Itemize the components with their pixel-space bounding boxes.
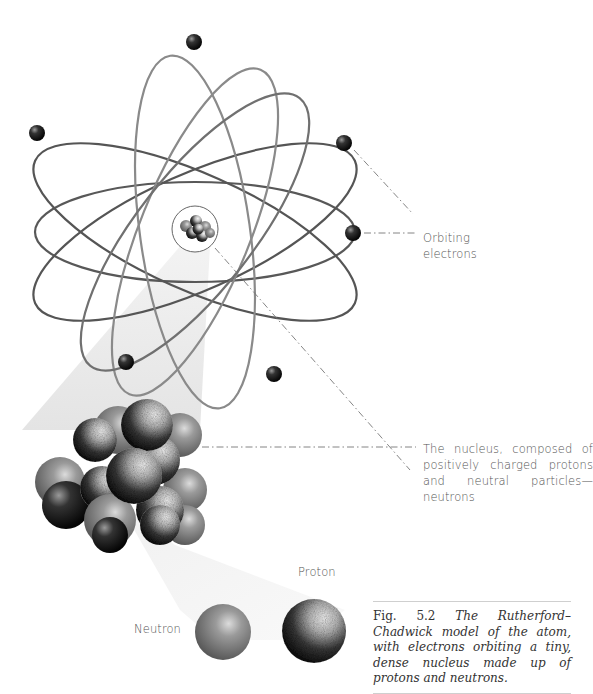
electron <box>186 34 202 50</box>
electron <box>336 135 352 151</box>
atom-nucleus <box>172 206 218 252</box>
label-neutron: Neutron <box>134 621 181 637</box>
electron <box>345 225 361 241</box>
electron <box>29 125 45 141</box>
proton-sphere <box>282 599 346 663</box>
label-nucleus: The nucleus, composed of positively char… <box>423 441 593 505</box>
figure-caption: Fig. 5.2 The Rutherford–Chadwick model o… <box>373 601 571 694</box>
electron <box>118 354 134 370</box>
magnify-beam-nucleus <box>22 244 210 430</box>
figure-number: Fig. 5.2 <box>373 609 435 623</box>
neutron-sphere <box>195 604 251 660</box>
electron <box>266 366 282 382</box>
label-orbiting-electrons: Orbiting electrons <box>423 230 523 262</box>
label-proton: Proton <box>298 564 336 580</box>
